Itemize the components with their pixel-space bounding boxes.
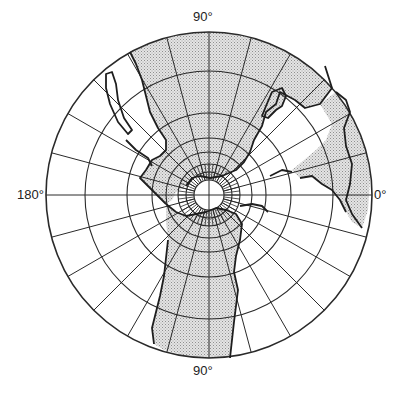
label-90-top: 90° [193,10,213,23]
meridian-line [222,203,350,277]
label-0-right: 0° [374,188,386,201]
label-90-bottom: 90° [193,364,213,377]
azimuthal-graticule-map [0,0,410,397]
label-180-left: 180° [17,188,44,201]
coast-isthmus [126,140,152,166]
land-lower [152,204,242,360]
land-right [292,92,370,228]
